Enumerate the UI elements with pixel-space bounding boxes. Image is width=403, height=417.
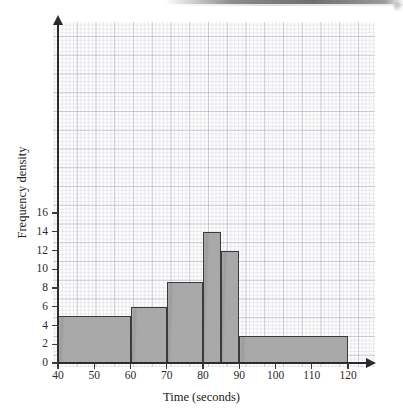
- y-axis-tick: [52, 306, 58, 307]
- y-axis-tick: [52, 344, 58, 345]
- x-axis-title: Time (seconds): [0, 390, 403, 405]
- histogram-figure: 0246810121416 405060708090100110120 Time…: [0, 0, 403, 417]
- y-axis-tick: [52, 325, 58, 326]
- plot-area: [58, 22, 375, 363]
- x-axis-tick-label: 100: [259, 370, 293, 382]
- scan-corner-smudge: [393, 2, 403, 12]
- y-axis-tick: [52, 250, 58, 251]
- y-axis-tick: [52, 231, 58, 232]
- y-axis-arrow-icon: [53, 15, 63, 25]
- histogram-bar: [58, 316, 131, 363]
- y-axis-tick-label: 4: [18, 320, 48, 332]
- y-axis-tick: [52, 212, 58, 213]
- x-axis-tick-label: 50: [77, 370, 111, 382]
- x-axis-tick-label: 110: [295, 370, 329, 382]
- y-axis-tick-label: 6: [18, 301, 48, 313]
- y-axis-tick-label: 2: [18, 338, 48, 350]
- y-axis-line: [57, 22, 59, 364]
- histogram-bar: [167, 282, 203, 363]
- x-axis-tick-label: 60: [114, 370, 148, 382]
- histogram-bar: [203, 232, 221, 363]
- histogram-bar: [131, 307, 167, 363]
- x-axis-arrow-icon: [366, 358, 376, 368]
- y-axis-tick: [52, 269, 58, 270]
- x-axis-tick-label: 120: [331, 370, 365, 382]
- y-axis-tick-label: 0: [18, 357, 48, 369]
- x-axis-tick-label: 40: [41, 370, 75, 382]
- scan-edge-artifact-secondary: [165, 4, 403, 6]
- y-axis-tick: [52, 287, 58, 288]
- x-axis-tick-label: 90: [222, 370, 256, 382]
- histogram-bar: [239, 336, 348, 363]
- x-axis-tick-label: 80: [186, 370, 220, 382]
- x-axis-tick-label: 70: [150, 370, 184, 382]
- y-axis-title: Frequency density: [15, 93, 30, 293]
- histogram-bar: [221, 251, 239, 364]
- x-axis-line: [57, 362, 368, 364]
